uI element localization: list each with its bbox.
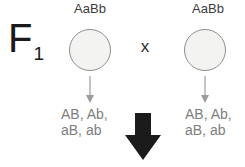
f1-cross-diagram: F1 AaBb AB, Ab, aB, ab x AaBb AB, Ab, aB… <box>0 0 245 167</box>
parent-2-circle <box>184 29 226 71</box>
parent-1-down-arrow-icon <box>84 75 96 105</box>
parent-1-gametes-line2: aB, ab <box>61 122 108 138</box>
parent-2-gametes: AB, Ab, aB, ab <box>185 106 232 138</box>
parent-1-circle <box>69 29 111 71</box>
big-down-arrow-icon <box>120 110 166 164</box>
f1-subscript: 1 <box>33 43 44 64</box>
f1-letter: F <box>8 16 32 60</box>
parent-1-gametes-line1: AB, Ab, <box>61 106 108 122</box>
parent-1-genotype-label: AaBb <box>60 1 120 16</box>
parent-2-genotype-label: AaBb <box>178 1 238 16</box>
parent-2-gametes-line2: aB, ab <box>185 122 232 138</box>
cross-symbol: x <box>133 37 157 57</box>
f1-generation-label: F1 <box>8 18 43 58</box>
parent-2-gametes-line1: AB, Ab, <box>185 106 232 122</box>
parent-2-down-arrow-icon <box>199 75 211 105</box>
parent-1-gametes: AB, Ab, aB, ab <box>61 106 108 138</box>
